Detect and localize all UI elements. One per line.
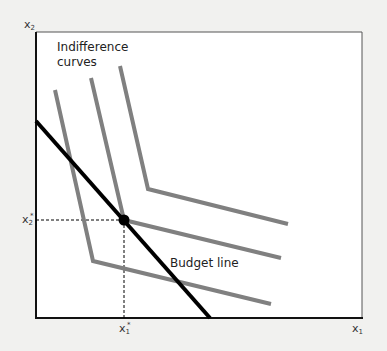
indifference-label-line1: Indifference bbox=[57, 40, 128, 55]
budget-line-label: Budget line bbox=[170, 256, 239, 271]
y-star-label: x2* bbox=[22, 213, 33, 227]
indifference-curves-label: Indifference curves bbox=[57, 40, 128, 70]
indifference-label-line2: curves bbox=[57, 55, 128, 70]
optimum-point bbox=[119, 215, 130, 226]
y-axis-label: x2 bbox=[24, 19, 35, 32]
x-star-label: x1* bbox=[119, 322, 130, 336]
x-axis-label: x1 bbox=[352, 323, 363, 336]
